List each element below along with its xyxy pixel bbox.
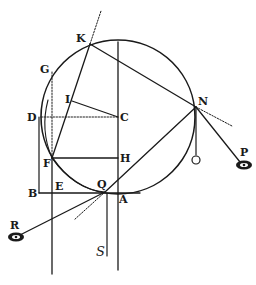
label-H: H — [120, 152, 130, 165]
point-O — [192, 156, 200, 164]
label-D: D — [27, 111, 37, 124]
line-N-P — [196, 107, 240, 162]
dotted-K-extension — [90, 11, 101, 44]
optics-diagram: K G I D C N F H B E Q A P R S — [0, 0, 256, 285]
label-Q: Q — [97, 178, 107, 191]
line-K-N — [90, 44, 196, 107]
eye-icon-P — [236, 161, 252, 170]
label-G: G — [40, 63, 49, 76]
label-E: E — [55, 180, 63, 193]
line-I-C — [72, 101, 118, 117]
label-C: C — [120, 111, 129, 124]
curve-F-top — [45, 100, 52, 158]
line-K-F — [52, 44, 90, 158]
label-R: R — [10, 219, 20, 232]
dotted-N-extension — [196, 107, 232, 126]
label-B: B — [28, 187, 37, 200]
label-S: S — [96, 244, 105, 259]
label-A: A — [118, 193, 128, 206]
eye-icon-R — [8, 233, 24, 242]
label-K: K — [76, 32, 86, 45]
label-P: P — [240, 146, 248, 159]
label-F: F — [43, 157, 51, 170]
label-I: I — [65, 93, 70, 106]
label-N: N — [198, 95, 208, 108]
